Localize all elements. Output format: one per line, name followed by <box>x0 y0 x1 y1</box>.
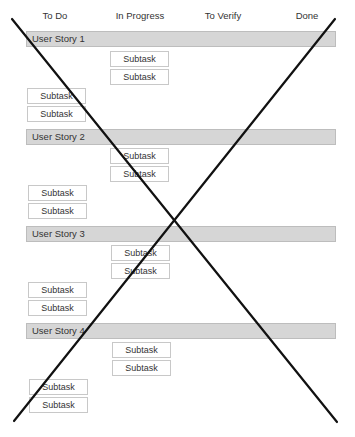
subtask-card: Subtask <box>29 397 88 413</box>
subtask-card: Subtask <box>110 51 169 67</box>
subtask-card: Subtask <box>112 360 171 376</box>
column-header-to-verify: To Verify <box>183 10 263 21</box>
subtask-card: Subtask <box>110 148 169 164</box>
user-story-bar: User Story 2 <box>26 129 336 145</box>
subtask-card: Subtask <box>111 245 170 261</box>
user-story-bar: User Story 3 <box>26 226 336 242</box>
subtask-card: Subtask <box>29 379 88 395</box>
subtask-card: Subtask <box>110 166 169 182</box>
subtask-card: Subtask <box>112 342 171 358</box>
user-story-bar: User Story 4 <box>26 323 336 339</box>
column-header-in-progress: In Progress <box>100 10 180 21</box>
subtask-card: Subtask <box>28 185 87 201</box>
column-header-todo: To Do <box>15 10 95 21</box>
subtask-card: Subtask <box>110 69 169 85</box>
subtask-card: Subtask <box>28 282 87 298</box>
user-story-bar: User Story 1 <box>26 31 336 47</box>
subtask-card: Subtask <box>111 263 170 279</box>
subtask-card: Subtask <box>28 203 87 219</box>
column-header-done: Done <box>267 10 347 21</box>
subtask-card: Subtask <box>27 106 86 122</box>
subtask-card: Subtask <box>28 300 87 316</box>
subtask-card: Subtask <box>27 88 86 104</box>
